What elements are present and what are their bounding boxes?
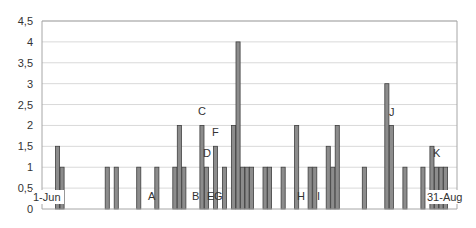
- annotation-j: J: [389, 106, 395, 118]
- bar: [204, 167, 208, 209]
- annotation-a: A: [148, 190, 156, 202]
- bar: [200, 125, 204, 209]
- y-tick-label: 4,5: [18, 15, 33, 27]
- bar: [105, 167, 109, 209]
- bar: [236, 42, 240, 209]
- y-tick-label: 4: [27, 36, 33, 48]
- y-tick-label: 0: [27, 203, 33, 215]
- bar: [421, 167, 425, 209]
- bar: [245, 167, 249, 209]
- annotation-b: B: [192, 190, 199, 202]
- bar: [222, 167, 226, 209]
- y-tick-label: 0,5: [18, 182, 33, 194]
- bar: [268, 167, 272, 209]
- bar: [326, 146, 330, 209]
- bar: [362, 167, 366, 209]
- gridlines: [42, 21, 457, 188]
- bar: [241, 167, 245, 209]
- bar: [232, 125, 236, 209]
- x-start-label: 1-Jun: [33, 191, 61, 203]
- annotation-k: K: [433, 147, 441, 159]
- y-tick-label: 1: [27, 161, 33, 173]
- bar: [313, 167, 317, 209]
- x-end-label: 31-Aug: [427, 191, 462, 203]
- bar: [173, 167, 177, 209]
- y-tick-label: 2,5: [18, 99, 33, 111]
- bar: [385, 84, 389, 209]
- annotation-g: G: [214, 190, 223, 202]
- annotation-c: C: [198, 105, 206, 117]
- bar: [114, 167, 118, 209]
- bar: [182, 167, 186, 209]
- bar-chart: 00,511,522,533,544,5 1-Jun31-Aug ABCDEFG…: [0, 0, 476, 228]
- bar: [155, 167, 159, 209]
- annotation-d: D: [203, 147, 211, 159]
- bar: [403, 167, 407, 209]
- bar: [331, 167, 335, 209]
- bar: [308, 167, 312, 209]
- annotation-h: H: [297, 190, 305, 202]
- y-tick-label: 3: [27, 78, 33, 90]
- bar: [281, 167, 285, 209]
- y-tick-label: 2: [27, 119, 33, 131]
- annotation-i: I: [317, 190, 320, 202]
- bar: [335, 125, 339, 209]
- bar: [137, 167, 141, 209]
- annotation-f: F: [212, 126, 219, 138]
- y-tick-label: 1,5: [18, 140, 33, 152]
- y-tick-label: 3,5: [18, 57, 33, 69]
- y-axis-ticks: 00,511,522,533,544,5: [18, 15, 33, 215]
- bar: [389, 125, 393, 209]
- bar: [177, 125, 181, 209]
- bar: [263, 167, 267, 209]
- bar: [250, 167, 254, 209]
